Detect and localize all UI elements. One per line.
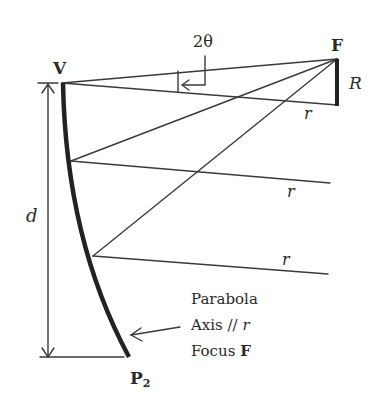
ray-r-1: [62, 83, 337, 105]
annotation-line-2: Axis // r: [191, 312, 258, 338]
endpoint-label-main: P: [130, 368, 143, 388]
ray-label-2: r: [287, 184, 295, 200]
radius-label: R: [349, 75, 362, 92]
parabola-annotation: Parabola Axis // r Focus F: [191, 286, 258, 364]
focus-label: F: [331, 37, 343, 54]
ray-label-3: r: [282, 252, 290, 268]
ray-r-2: [71, 161, 330, 183]
ray-label-1: r: [304, 106, 312, 122]
angle-label: 2θ: [193, 34, 213, 50]
vertex-label: V: [53, 60, 66, 77]
parabola-curve: [63, 83, 129, 357]
annotation-leader: [131, 327, 180, 335]
ray-r-3: [93, 256, 328, 274]
line-focus-to-point-1: [71, 59, 337, 161]
distance-label: d: [26, 207, 38, 225]
annotation-line-1: Parabola: [191, 286, 258, 312]
endpoint-label-sub: 2: [143, 377, 151, 390]
annotation-line-3: Focus F: [191, 338, 258, 364]
line-vertex-to-focus: [62, 59, 337, 83]
endpoint-label: P2: [130, 370, 150, 389]
